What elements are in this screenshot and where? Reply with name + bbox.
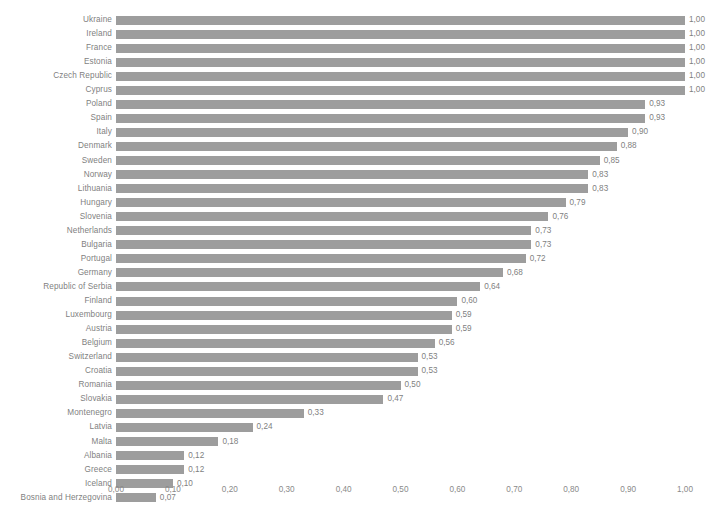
category-label: Latvia (0, 420, 112, 434)
category-label: Spain (0, 111, 112, 125)
bar-value-label: 0,64 (484, 280, 500, 294)
bar (116, 72, 685, 81)
category-label: Estonia (0, 55, 112, 69)
bar (116, 353, 418, 362)
bar (116, 226, 531, 235)
category-label: Ukraine (0, 13, 112, 27)
bar (116, 240, 531, 249)
category-label: Czech Republic (0, 69, 112, 83)
bar-value-label: 0,93 (649, 111, 665, 125)
bar-track (116, 268, 503, 277)
category-label: Lithuania (0, 182, 112, 196)
category-label: Hungary (0, 196, 112, 210)
x-tick-label: 0,00 (108, 484, 124, 496)
bar (116, 381, 401, 390)
x-axis: 0,000,100,200,300,400,500,600,700,800,90… (0, 484, 714, 504)
bar-row: Belgium0,56 (0, 336, 714, 350)
bar-track (116, 16, 685, 25)
category-label: Norway (0, 168, 112, 182)
bar-value-label: 0,53 (422, 364, 438, 378)
bar (116, 44, 685, 53)
bar-row: Norway0,83 (0, 168, 714, 182)
bar-value-label: 0,72 (530, 252, 546, 266)
bar-track (116, 311, 452, 320)
bar-value-label: 0,76 (552, 210, 568, 224)
bar-row: Austria0,59 (0, 322, 714, 336)
bar-value-label: 1,00 (689, 13, 705, 27)
bar-track (116, 409, 304, 418)
bar (116, 114, 645, 123)
bar-track (116, 339, 435, 348)
bar (116, 437, 218, 446)
bar-value-label: 0,56 (439, 336, 455, 350)
x-tick-label: 0,30 (279, 484, 295, 496)
bar (116, 297, 457, 306)
bar (116, 212, 548, 221)
bar-track (116, 44, 685, 53)
x-tick-label: 0,20 (222, 484, 238, 496)
x-tick-label: 0,90 (620, 484, 636, 496)
category-label: Malta (0, 435, 112, 449)
bar-row: Montenegro0,33 (0, 406, 714, 420)
x-tick-label: 0,40 (336, 484, 352, 496)
bar-row: Portugal0,72 (0, 252, 714, 266)
bar-row: Croatia0,53 (0, 364, 714, 378)
bar-track (116, 325, 452, 334)
bar (116, 142, 617, 151)
category-label: Portugal (0, 252, 112, 266)
bar (116, 451, 184, 460)
bar-value-label: 1,00 (689, 69, 705, 83)
bar-row: Luxembourg0,59 (0, 308, 714, 322)
bar-track (116, 254, 526, 263)
bar-value-label: 0,93 (649, 97, 665, 111)
category-label: Luxembourg (0, 308, 112, 322)
category-label: Switzerland (0, 350, 112, 364)
bar-track (116, 465, 184, 474)
bar-row: Denmark0,88 (0, 139, 714, 153)
bar-value-label: 0,24 (257, 420, 273, 434)
category-label: France (0, 41, 112, 55)
bar-chart: Ukraine1,00Ireland1,00France1,00Estonia1… (0, 0, 714, 511)
bar-track (116, 156, 600, 165)
bar (116, 395, 383, 404)
bar-track (116, 282, 480, 291)
category-label: Denmark (0, 139, 112, 153)
bar (116, 100, 645, 109)
bar-row: Italy0,90 (0, 125, 714, 139)
x-tick-label: 0,10 (165, 484, 181, 496)
x-tick-label: 0,80 (563, 484, 579, 496)
x-tick-label: 1,00 (677, 484, 693, 496)
bar-track (116, 367, 418, 376)
category-label: Bulgaria (0, 238, 112, 252)
bar-track (116, 297, 457, 306)
bar (116, 325, 452, 334)
category-label: Slovenia (0, 210, 112, 224)
bar-value-label: 0,12 (188, 449, 204, 463)
category-label: Romania (0, 378, 112, 392)
bar-row: Hungary0,79 (0, 196, 714, 210)
bar-value-label: 0,50 (405, 378, 421, 392)
bar-value-label: 0,59 (456, 308, 472, 322)
category-label: Cyprus (0, 83, 112, 97)
category-label: Croatia (0, 364, 112, 378)
bar-value-label: 0,18 (222, 435, 238, 449)
category-label: Poland (0, 97, 112, 111)
category-label: Belgium (0, 336, 112, 350)
category-label: Netherlands (0, 224, 112, 238)
bar-row: Romania0,50 (0, 378, 714, 392)
bar-track (116, 72, 685, 81)
category-label: Sweden (0, 154, 112, 168)
bar (116, 184, 588, 193)
bar-row: Greece0,12 (0, 463, 714, 477)
bar-row: Finland0,60 (0, 294, 714, 308)
bar-track (116, 198, 566, 207)
bar-row: Ukraine1,00 (0, 13, 714, 27)
bar-track (116, 58, 685, 67)
bar-row: Sweden0,85 (0, 154, 714, 168)
bar (116, 86, 685, 95)
bar (116, 16, 685, 25)
bar-track (116, 212, 548, 221)
bar-value-label: 0,83 (592, 182, 608, 196)
bar-value-label: 1,00 (689, 83, 705, 97)
bar-track (116, 240, 531, 249)
